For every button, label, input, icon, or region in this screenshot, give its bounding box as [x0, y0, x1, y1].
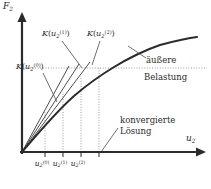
external-load-annotation-line1: äußere	[146, 56, 176, 65]
converged-solution-annotation-line1: konvergierte	[120, 116, 175, 125]
y-axis-label: F2	[3, 2, 13, 12]
x-axis-arrowhead	[196, 148, 206, 157]
x-tick-label-2: u2(2)	[63, 160, 93, 168]
stiffness-label-k0: K(u2(0))	[16, 63, 44, 72]
stiffness-label-k1: K(u2(1))	[42, 30, 70, 39]
x-axis-label: u2	[186, 134, 196, 144]
external-load-annotation-line2: Belastung	[144, 73, 187, 82]
stiffness-line-k2	[22, 62, 90, 152]
leader-line-k0	[43, 73, 57, 102]
stiffness-label-k2: K(u2(2))	[87, 30, 115, 39]
leader-line-k2	[92, 41, 100, 65]
leader-line-converged	[101, 128, 118, 152]
y-axis-arrowhead	[18, 12, 27, 22]
leader-line-k1	[62, 41, 82, 68]
converged-solution-annotation-line2: Lösung	[120, 127, 152, 136]
stiffness-line-k1	[22, 64, 79, 152]
x-axis-label-sub: 2	[192, 138, 196, 144]
figure-container: F2 u2 K(u2(0)) K(u2(1)) K(u2(2)) äußere …	[0, 0, 211, 189]
y-axis-label-sub: 2	[9, 6, 13, 12]
